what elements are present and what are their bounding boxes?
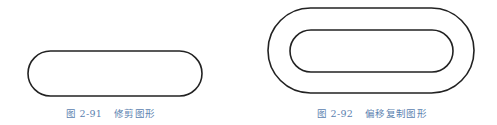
- offset-outer-stadium-shape: [268, 8, 474, 93]
- figure-caption-2-92: 图 2-92偏移复制图形: [317, 106, 427, 120]
- figure-caption-2-91: 图 2-91修剪图形: [66, 106, 155, 120]
- figure-title: 修剪图形: [114, 108, 155, 119]
- trimmed-stadium-shape: [28, 51, 202, 96]
- figure-number: 图 2-91: [66, 108, 102, 119]
- figure-number: 图 2-92: [317, 108, 353, 119]
- offset-inner-stadium-shape: [290, 30, 453, 72]
- figure-title: 偏移复制图形: [365, 108, 427, 119]
